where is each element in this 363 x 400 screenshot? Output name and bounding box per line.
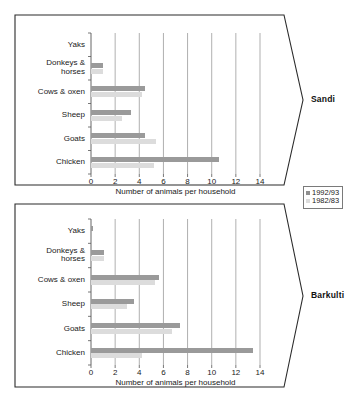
x-tick-label: 6 bbox=[161, 177, 165, 186]
bar bbox=[91, 133, 145, 138]
x-axis-title: Number of animals per household bbox=[115, 187, 235, 196]
category-label: Sheep bbox=[14, 111, 85, 120]
category-label: Cows & oxen bbox=[14, 276, 85, 285]
chart-plot-barkulti: 02468101214Number of animals per househo… bbox=[14, 203, 304, 388]
x-tick-label: 12 bbox=[231, 368, 240, 377]
category-label: Chicken bbox=[14, 349, 85, 358]
x-tick-label: 4 bbox=[137, 177, 141, 186]
bar bbox=[91, 299, 134, 304]
x-tick-label: 10 bbox=[207, 177, 216, 186]
category-label: Goats bbox=[14, 324, 85, 333]
x-tick-label: 10 bbox=[207, 368, 216, 377]
chart-plot-sandi: 02468101214Number of animals per househo… bbox=[14, 14, 304, 186]
category-label: Donkeys & horses bbox=[14, 60, 85, 77]
panel-sandi: 02468101214Number of animals per househo… bbox=[14, 14, 304, 186]
bar bbox=[91, 256, 104, 261]
category-label: Cows & oxen bbox=[14, 87, 85, 96]
legend: 1992/93 1982/83 bbox=[303, 186, 343, 209]
legend-swatch-1992-93-icon bbox=[306, 191, 310, 195]
panel-label-sandi: Sandi bbox=[311, 94, 335, 104]
x-tick-label: 6 bbox=[161, 368, 165, 377]
bar bbox=[91, 86, 145, 91]
panel-label-barkulti: Barkulti bbox=[311, 290, 344, 300]
x-tick-label: 2 bbox=[113, 368, 117, 377]
bar bbox=[91, 323, 180, 328]
bar bbox=[91, 63, 103, 68]
bar bbox=[91, 157, 219, 162]
bar bbox=[91, 275, 159, 280]
x-tick-label: 2 bbox=[113, 177, 117, 186]
x-tick-label: 14 bbox=[256, 368, 265, 377]
bar bbox=[91, 110, 131, 115]
category-label: Chicken bbox=[14, 158, 85, 167]
bar bbox=[91, 353, 142, 358]
bar bbox=[91, 139, 156, 144]
bar bbox=[91, 304, 127, 309]
x-axis-title: Number of animals per household bbox=[115, 378, 235, 387]
x-tick-label: 8 bbox=[185, 368, 189, 377]
x-tick-label: 8 bbox=[185, 177, 189, 186]
legend-item: 1982/83 bbox=[306, 197, 339, 205]
bar bbox=[91, 116, 122, 121]
category-label: Yaks bbox=[14, 227, 85, 236]
x-tick-label: 0 bbox=[89, 177, 93, 186]
panel-barkulti: 02468101214Number of animals per househo… bbox=[14, 203, 304, 388]
bar bbox=[91, 163, 154, 168]
category-label: Donkeys & horses bbox=[14, 247, 85, 264]
x-tick-label: 12 bbox=[231, 177, 240, 186]
bar bbox=[91, 69, 103, 74]
bar bbox=[91, 226, 93, 231]
legend-label-1982-83: 1982/83 bbox=[312, 197, 339, 205]
legend-swatch-1982-83-icon bbox=[306, 199, 310, 203]
x-tick-label: 4 bbox=[137, 368, 141, 377]
x-tick-label: 0 bbox=[89, 368, 93, 377]
category-label: Goats bbox=[14, 134, 85, 143]
bar bbox=[91, 250, 104, 255]
bar bbox=[91, 280, 155, 285]
category-label: Yaks bbox=[14, 40, 85, 49]
figure-root: 02468101214Number of animals per househo… bbox=[0, 0, 363, 400]
x-tick-label: 14 bbox=[256, 177, 265, 186]
category-label: Sheep bbox=[14, 300, 85, 309]
bar bbox=[91, 92, 142, 97]
bar bbox=[91, 348, 253, 353]
bar bbox=[91, 329, 172, 334]
